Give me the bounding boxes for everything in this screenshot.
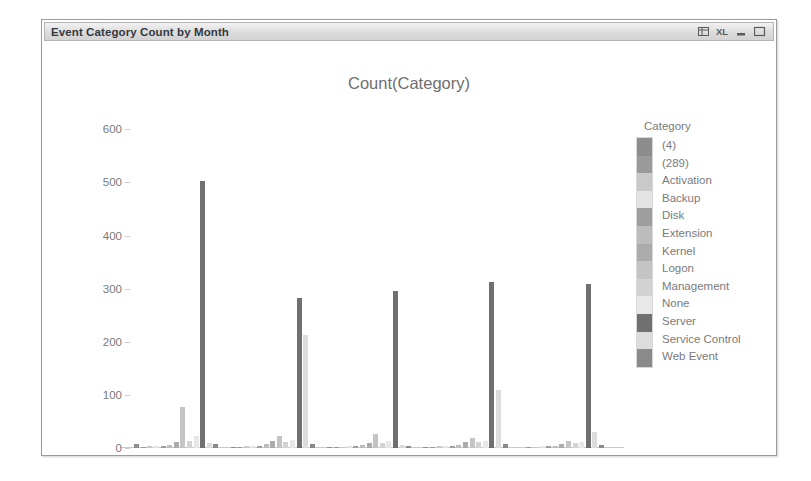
bar[interactable] [559, 444, 564, 448]
legend-item-label[interactable]: None [662, 295, 774, 313]
bar[interactable] [264, 444, 269, 448]
bar[interactable] [277, 436, 282, 448]
minimize-icon[interactable] [736, 26, 747, 37]
bar[interactable] [373, 434, 378, 448]
legend-item-label[interactable]: (4) [662, 137, 774, 155]
legend-swatch[interactable] [637, 138, 652, 156]
bar[interactable] [463, 442, 468, 448]
legend-swatch[interactable] [637, 208, 652, 226]
bar[interactable] [476, 442, 481, 448]
legend-swatch[interactable] [637, 279, 652, 297]
bar[interactable] [546, 446, 551, 448]
bar[interactable] [340, 447, 345, 449]
bar[interactable] [334, 447, 339, 449]
bar[interactable] [533, 447, 538, 449]
bar[interactable] [450, 446, 455, 448]
bar[interactable] [586, 284, 591, 448]
bar[interactable] [400, 445, 405, 448]
bar[interactable] [231, 447, 236, 449]
bar[interactable] [386, 441, 391, 448]
bar[interactable] [496, 390, 501, 448]
legend-swatch[interactable] [637, 226, 652, 244]
bar[interactable] [310, 444, 315, 448]
legend-swatch[interactable] [637, 156, 652, 174]
maximize-icon[interactable] [754, 26, 766, 37]
legend-swatch[interactable] [637, 349, 652, 367]
window-titlebar[interactable]: Event Category Count by Month XL [44, 22, 774, 41]
legend-item-label[interactable]: Extension [662, 225, 774, 243]
chart-canvas[interactable]: Count(Category) 0100200300400500600MarFe… [44, 42, 774, 453]
bar[interactable] [347, 446, 352, 448]
legend-item-label[interactable]: Disk [662, 207, 774, 225]
legend-item-label[interactable]: (289) [662, 155, 774, 173]
legend-swatch[interactable] [637, 332, 652, 350]
chart-legend: Category (4)(289)ActivationBackupDiskExt… [636, 120, 774, 368]
legend-item-label[interactable]: Server [662, 313, 774, 331]
legend-swatch[interactable] [637, 261, 652, 279]
bar[interactable] [566, 441, 571, 448]
bar[interactable] [290, 440, 295, 449]
bar[interactable] [540, 446, 545, 448]
bar[interactable] [367, 443, 372, 448]
legend-item-label[interactable]: Backup [662, 190, 774, 208]
bar[interactable] [250, 446, 255, 448]
bar[interactable] [526, 447, 531, 449]
bar[interactable] [303, 335, 308, 448]
bar[interactable] [237, 447, 242, 449]
legend-swatch[interactable] [637, 191, 652, 209]
bar[interactable] [283, 442, 288, 448]
bar[interactable] [200, 181, 205, 448]
bar[interactable] [470, 438, 475, 448]
legend-swatch[interactable] [637, 173, 652, 191]
plot-area[interactable]: 0100200300400500600MarFebJanDecNov [132, 108, 614, 448]
legend-item-label[interactable]: Management [662, 278, 774, 296]
bar[interactable] [423, 447, 428, 449]
bar[interactable] [187, 441, 192, 448]
table-view-icon[interactable] [698, 26, 709, 37]
bar[interactable] [503, 444, 508, 448]
legend-swatch[interactable] [637, 296, 652, 314]
bar[interactable] [167, 445, 172, 448]
chart-window: Event Category Count by Month XL [41, 19, 777, 456]
bar[interactable] [553, 446, 558, 448]
bar[interactable] [592, 432, 597, 448]
bar[interactable] [257, 446, 262, 448]
y-axis-tick-label: 500 [103, 176, 122, 188]
bar[interactable] [360, 445, 365, 448]
bar[interactable] [174, 442, 179, 448]
bar[interactable] [406, 446, 411, 448]
bar[interactable] [154, 446, 159, 448]
bar[interactable] [573, 443, 578, 448]
bar[interactable] [327, 447, 332, 449]
bar[interactable] [213, 444, 218, 448]
legend-item-label[interactable]: Activation [662, 172, 774, 190]
excel-export-icon[interactable]: XL [716, 26, 729, 37]
legend-swatch[interactable] [637, 314, 652, 332]
bar[interactable] [579, 442, 584, 448]
bar[interactable] [207, 443, 212, 448]
bar[interactable] [437, 446, 442, 448]
bar[interactable] [194, 436, 199, 448]
bar[interactable] [393, 291, 398, 448]
bar[interactable] [443, 446, 448, 448]
bar[interactable] [297, 298, 302, 448]
bar[interactable] [147, 446, 152, 448]
bar[interactable] [483, 441, 488, 448]
bar[interactable] [141, 447, 146, 449]
bar[interactable] [430, 447, 435, 449]
legend-swatch[interactable] [637, 244, 652, 262]
legend-item-label[interactable]: Kernel [662, 243, 774, 261]
bar[interactable] [599, 445, 604, 448]
legend-item-label[interactable]: Web Event [662, 348, 774, 366]
bar[interactable] [134, 444, 139, 448]
legend-item-label[interactable]: Service Control [662, 331, 774, 349]
legend-item-label[interactable]: Logon [662, 260, 774, 278]
bar[interactable] [380, 443, 385, 448]
bar[interactable] [270, 441, 275, 448]
bar[interactable] [161, 446, 166, 448]
bar[interactable] [456, 445, 461, 448]
bar[interactable] [489, 282, 494, 448]
bar[interactable] [180, 407, 185, 448]
bar[interactable] [353, 446, 358, 448]
bar[interactable] [244, 446, 249, 448]
